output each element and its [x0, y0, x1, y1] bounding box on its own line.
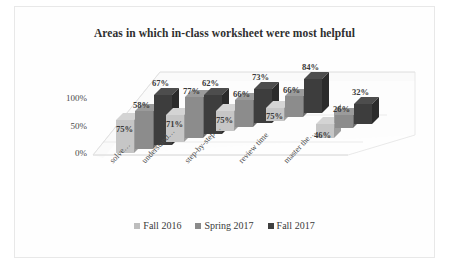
data-label-sp17-2: 77% — [183, 86, 200, 96]
data-label-f17-2: 62% — [202, 78, 219, 88]
y-tick-0: 0% — [53, 148, 87, 158]
bar-f17-5-front — [354, 104, 372, 124]
data-label-f17-1: 67% — [152, 78, 169, 88]
legend-label-fall-2016: Fall 2016 — [143, 220, 181, 231]
bar-sp17-2-front — [185, 97, 203, 138]
bar-sp17-4-front — [285, 96, 303, 117]
bar-sp17-5-front — [335, 115, 353, 128]
legend-item-fall-2016[interactable]: Fall 2016 — [134, 220, 181, 231]
legend-label-fall-2017: Fall 2017 — [277, 220, 315, 231]
data-label-sp17-3: 66% — [233, 89, 250, 99]
legend-swatch-fall-2017 — [268, 223, 274, 229]
data-label-f17-5: 32% — [352, 87, 369, 97]
data-label-f16-4: 75% — [266, 111, 283, 121]
data-label-f16-2: 71% — [166, 119, 183, 129]
data-label-sp17-5: 26% — [333, 104, 350, 114]
data-label-f16-3: 75% — [216, 115, 233, 125]
legend-item-spring-2017[interactable]: Spring 2017 — [195, 220, 253, 231]
bar-f17-4-front — [304, 79, 322, 113]
data-label-sp17-4: 66% — [283, 85, 300, 95]
legend-label-spring-2017: Spring 2017 — [204, 220, 253, 231]
y-tick-100: 100% — [53, 93, 87, 103]
data-label-f17-3: 73% — [252, 72, 269, 82]
data-label-sp17-1: 58% — [133, 100, 150, 110]
chart-legend: Fall 2016 Spring 2017 Fall 2017 — [15, 220, 434, 231]
data-label-f16-5: 46% — [314, 130, 331, 140]
bar-sp17-3-front — [235, 100, 253, 127]
bar-sp17-1-front — [135, 111, 153, 149]
bar-f17-4-side — [322, 72, 329, 113]
y-tick-50: 50% — [53, 121, 87, 131]
legend-swatch-spring-2017 — [195, 223, 201, 229]
legend-swatch-fall-2016 — [134, 223, 140, 229]
legend-item-fall-2017[interactable]: Fall 2017 — [268, 220, 315, 231]
chart-frame: Areas in which in-class worksheet were m… — [14, 6, 435, 258]
data-label-f16-1: 75% — [116, 124, 133, 134]
data-label-f17-4: 84% — [302, 62, 319, 72]
